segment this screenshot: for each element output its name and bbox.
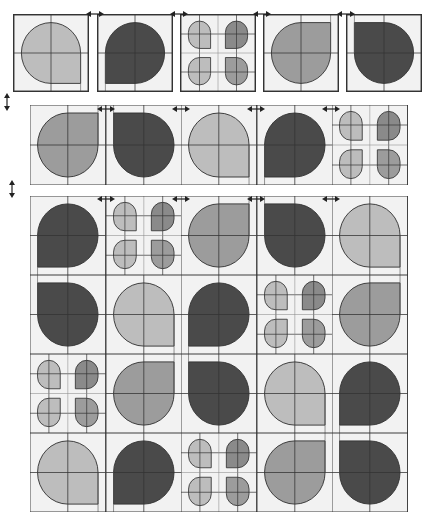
grid-tile-r2-c5 xyxy=(332,275,408,354)
grid-swap-arrow-icon-2 xyxy=(172,188,190,196)
grid-tile-r4-c2 xyxy=(106,433,182,512)
row1-swap-arrow-icon-1 xyxy=(86,3,104,11)
grid-tile-r3-c2 xyxy=(106,354,182,433)
row2-swap-arrow-icon-2 xyxy=(172,98,190,106)
row1-tile-3 xyxy=(180,14,256,92)
grid-tile-r1-c5 xyxy=(332,196,408,275)
grid-swap-arrow-icon-1 xyxy=(97,188,115,196)
row1-swap-arrow-icon-2 xyxy=(170,3,188,11)
grid-tile-r3-c5 xyxy=(332,354,408,433)
grid-tile-r4-c3 xyxy=(181,433,257,512)
row2-tile-4 xyxy=(257,105,333,185)
grid-swap-arrow-icon-3 xyxy=(247,188,265,196)
row2-swap-arrow-icon-3 xyxy=(247,98,265,106)
grid-tile-r2-c2 xyxy=(106,275,182,354)
grid-tile-r2-c4 xyxy=(257,275,333,354)
row2-tile-2 xyxy=(106,105,182,185)
row2-tile-3 xyxy=(181,105,257,185)
grid-swap-arrow-icon-4 xyxy=(322,188,340,196)
grid-tile-r4-c5 xyxy=(332,433,408,512)
grid-tile-r1-c2 xyxy=(106,196,182,275)
row1-tile-1 xyxy=(13,14,89,92)
row1-swap-arrow-icon-4 xyxy=(337,3,355,11)
row1-tile-4 xyxy=(263,14,339,92)
grid-tile-r1-c1 xyxy=(30,196,106,275)
grid-tile-r1-c4 xyxy=(257,196,333,275)
row2-swap-arrow-icon-1 xyxy=(97,98,115,106)
grid-tile-r3-c1 xyxy=(30,354,106,433)
grid-tile-r2-c3 xyxy=(181,275,257,354)
row2-swap-arrow-icon-4 xyxy=(322,98,340,106)
grid-tile-r4-c4 xyxy=(257,433,333,512)
row-swap-vertical-arrow-icon-1 xyxy=(3,93,11,111)
grid-tile-r3-c4 xyxy=(257,354,333,433)
row1-tile-2 xyxy=(97,14,173,92)
grid-tile-r1-c3 xyxy=(181,196,257,275)
grid-tile-r3-c3 xyxy=(181,354,257,433)
row2-tile-1 xyxy=(30,105,106,185)
grid-tile-r4-c1 xyxy=(30,433,106,512)
row1-swap-arrow-icon-3 xyxy=(253,3,271,11)
row2-tile-5 xyxy=(332,105,408,185)
row1-tile-5 xyxy=(346,14,422,92)
grid-tile-r2-c1 xyxy=(30,275,106,354)
row-swap-vertical-arrow-icon-2 xyxy=(8,180,16,198)
